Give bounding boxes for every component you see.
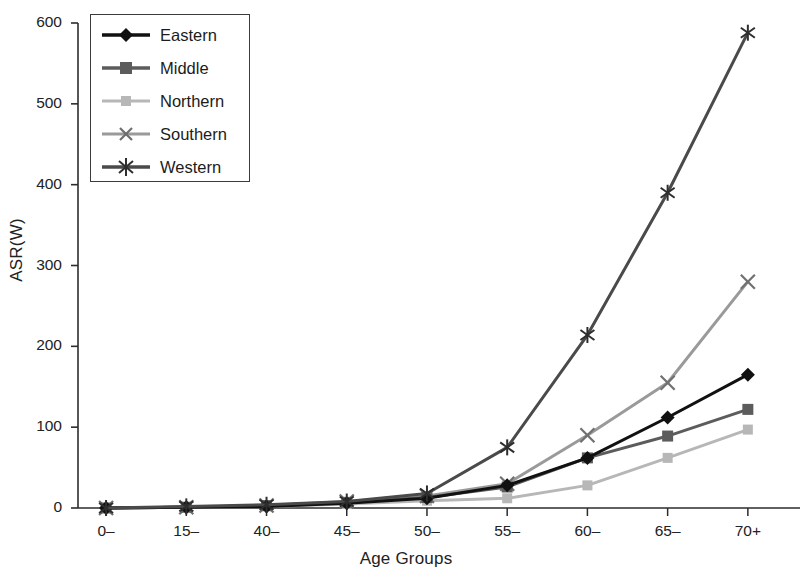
legend: Eastern Middle Northern [90,14,250,182]
x-tick-label: 55– [477,522,537,540]
legend-item-northern: Northern [100,86,246,116]
legend-label-southern: Southern [152,125,227,144]
legend-item-southern: Southern [100,119,246,149]
asterisk-marker-icon [100,156,152,178]
legend-label-eastern: Eastern [152,26,217,45]
x-axis-ticks [106,508,748,516]
x-tick-label: 0– [76,522,136,540]
y-tick-label: 0 [16,498,62,516]
x-tick-label: 65– [638,522,698,540]
y-axis-ticks [71,23,78,508]
x-axis-title: Age Groups [0,549,812,569]
data-point-marker [741,25,755,41]
x-tick-label: 50– [397,522,457,540]
data-point-marker [661,185,675,201]
x-marker-icon [100,123,152,145]
y-tick-label: 300 [16,256,62,274]
data-point-marker [663,453,673,463]
diamond-marker-icon [100,24,152,46]
y-tick-label: 600 [16,13,62,31]
legend-item-western: Western [100,152,246,182]
data-point-marker [661,376,675,390]
data-point-marker [741,368,755,382]
legend-label-northern: Northern [152,92,224,111]
data-point-marker [661,410,675,424]
x-tick-label: 60– [557,522,617,540]
y-axis-title: ASR(W) [7,200,27,300]
data-point-marker [741,275,755,289]
data-point-marker [502,493,512,503]
data-point-marker [582,480,592,490]
x-tick-label: 40– [237,522,297,540]
series-southern [99,275,755,515]
data-point-marker [743,425,753,435]
y-tick-label: 100 [16,417,62,435]
data-point-marker [742,404,753,415]
data-point-marker [662,431,673,442]
legend-item-middle: Middle [100,53,246,83]
x-tick-label: 70+ [718,522,778,540]
y-tick-label: 500 [16,94,62,112]
x-tick-label: 45– [317,522,377,540]
square-marker-icon [100,57,152,79]
chart-container: ASR(W) Age Groups 0100200300400500600 0–… [0,0,812,583]
legend-label-western: Western [152,158,221,177]
legend-item-eastern: Eastern [100,20,246,50]
square-small-marker-icon [100,90,152,112]
x-tick-label: 15– [156,522,216,540]
data-point-marker [580,428,594,442]
y-tick-label: 400 [16,175,62,193]
legend-label-middle: Middle [152,59,209,78]
y-tick-label: 200 [16,336,62,354]
